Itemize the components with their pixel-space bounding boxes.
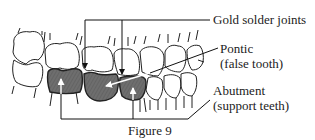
figure-caption: Figure 9 (128, 124, 172, 138)
left-abutment-crown (48, 69, 83, 94)
pontic-crown (84, 73, 118, 102)
abutment-label: Abutment (213, 84, 265, 97)
abutment-sublabel: (support teeth) (213, 99, 289, 112)
pontic-sublabel: (false tooth) (220, 57, 283, 70)
upper-teeth (13, 28, 203, 76)
pontic-label: Pontic (220, 42, 253, 55)
gold-solder-joints-label: Gold solder joints (213, 13, 306, 26)
bridge (48, 69, 146, 101)
dental-bridge-figure: Gold solder joints Pontic (false tooth) … (0, 0, 315, 140)
